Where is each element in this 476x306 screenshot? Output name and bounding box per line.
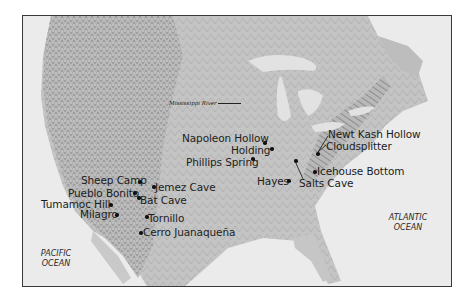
river-leader-line xyxy=(218,103,241,104)
site-dot xyxy=(109,203,113,207)
site-dot xyxy=(139,231,143,235)
pacific-line2: OCEAN xyxy=(38,259,74,269)
site-cloudsplitter: Cloudsplitter xyxy=(326,141,392,152)
atlantic-ocean-label: ATLANTIC OCEAN xyxy=(385,213,431,233)
site-phillips-spring: Phillips Spring xyxy=(186,157,259,168)
site-dot xyxy=(251,157,255,161)
site-newt-kash-hollow: Newt Kash Hollow xyxy=(328,129,421,140)
site-bat-cave: Bat Cave xyxy=(140,195,187,206)
site-dot xyxy=(115,213,119,217)
atlantic-line1: ATLANTIC xyxy=(385,213,431,223)
site-dot xyxy=(138,180,142,184)
site-salts-cave: Salts Cave xyxy=(299,178,353,189)
atlantic-line2: OCEAN xyxy=(385,223,431,233)
site-dot xyxy=(287,179,291,183)
mississippi-river-label: Mississippi River xyxy=(169,100,217,106)
site-dot xyxy=(270,147,274,151)
site-icehouse-bottom: Icehouse Bottom xyxy=(317,166,404,177)
site-tornillo: Tornillo xyxy=(148,213,184,224)
kentucky-leader-lines xyxy=(317,134,331,154)
site-dot xyxy=(313,170,317,174)
site-cerro-juanaquena: Cerro Juanaqueña xyxy=(143,227,235,238)
pacific-line1: PACIFIC xyxy=(38,249,74,259)
map-frame: PACIFIC OCEAN ATLANTIC OCEAN Mississippi… xyxy=(22,15,452,287)
site-hayes: Hayes xyxy=(257,176,289,187)
site-dot xyxy=(133,191,137,195)
site-holding: Holding xyxy=(231,145,270,156)
pacific-ocean-label: PACIFIC OCEAN xyxy=(38,249,74,269)
site-sheep-camp: Sheep Camp xyxy=(81,175,147,186)
site-milagro: Milagro xyxy=(80,209,118,220)
site-napoleon-hollow: Napoleon Hollow xyxy=(182,133,269,144)
site-pueblo-bonito: Pueblo Bonito xyxy=(68,188,139,199)
site-jemez-cave: Jemez Cave xyxy=(155,182,216,193)
